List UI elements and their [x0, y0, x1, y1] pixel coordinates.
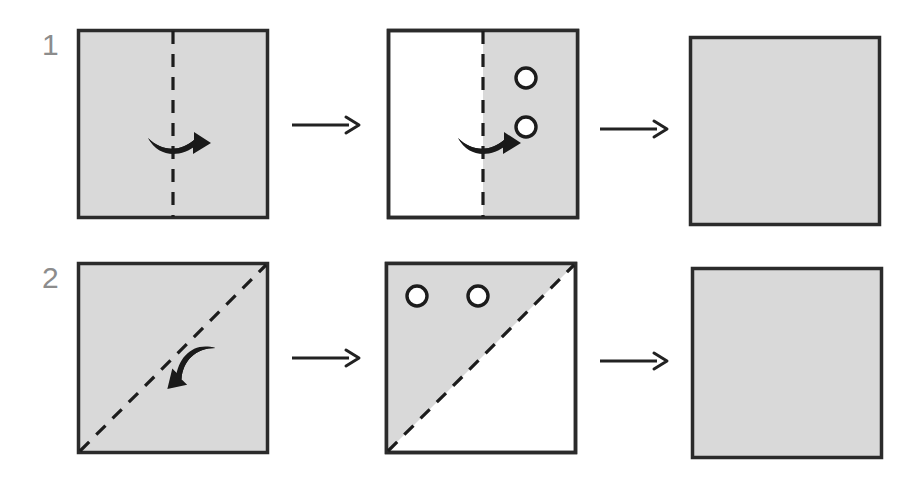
row-number-2: 2	[42, 263, 59, 293]
row-1-connector-arrow-1	[290, 112, 362, 138]
row-2-connector-arrow-2	[598, 348, 670, 374]
answer-blank-square	[691, 38, 880, 225]
row-2-step-1-panel	[76, 261, 270, 455]
punched-hole	[516, 68, 536, 88]
row-2-step-3-answer-panel	[690, 266, 884, 460]
row-2-step-2-panel	[384, 261, 578, 455]
row-number-1: 1	[42, 30, 59, 60]
figure-canvas: 1 2	[0, 0, 920, 479]
punched-hole	[516, 117, 536, 137]
row-1-step-3-answer-panel	[688, 35, 882, 227]
row-1-connector-arrow-2	[598, 116, 670, 142]
punched-hole	[468, 286, 488, 306]
row-1-step-2-panel	[386, 28, 580, 220]
answer-blank-square	[693, 269, 882, 458]
row-1-step-1-panel	[76, 28, 270, 220]
row-2-connector-arrow-1	[290, 345, 362, 371]
punched-hole	[407, 286, 427, 306]
